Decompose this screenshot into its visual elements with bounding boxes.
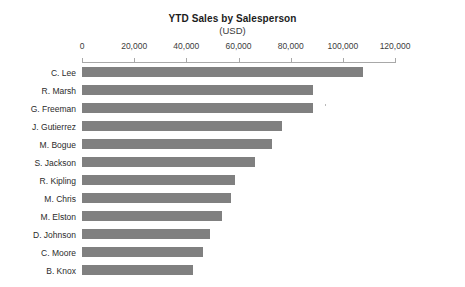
bar (82, 175, 235, 185)
bar (82, 121, 282, 131)
category-label: B. Knox (0, 266, 76, 276)
chart-subtitle: (USD) (0, 25, 465, 37)
bar-row (82, 99, 395, 117)
x-axis-tick-label: 20,000 (121, 41, 147, 52)
bar (82, 103, 313, 113)
bar-row (82, 207, 395, 225)
bar (82, 85, 313, 95)
category-label: M. Elston (0, 212, 76, 222)
bar (82, 265, 193, 275)
bar (82, 67, 363, 77)
bar-chart: YTD Sales by Salesperson (USD) C. LeeR. … (0, 0, 465, 287)
bar-row (82, 153, 395, 171)
bar-row (82, 225, 395, 243)
category-label: M. Chris (0, 194, 76, 204)
category-label: S. Jackson (0, 158, 76, 168)
category-label: J. Gutierrez (0, 122, 76, 132)
category-label: R. Kipling (0, 176, 76, 186)
bar-row (82, 171, 395, 189)
chart-title-block: YTD Sales by Salesperson (USD) (0, 13, 465, 37)
x-axis-tick-label: 60,000 (226, 41, 252, 52)
category-label: R. Marsh (0, 86, 76, 96)
bar-row (82, 135, 395, 153)
category-label: C. Lee (0, 68, 76, 78)
page-title: YTD Sales by Salesperson (0, 13, 465, 25)
category-label: G. Freeman (0, 104, 76, 114)
category-label: D. Johnson (0, 230, 76, 240)
stray-mark (325, 104, 326, 106)
bar-row (82, 117, 395, 135)
bar (82, 211, 222, 221)
category-label: M. Bogue (0, 140, 76, 150)
x-axis-tick-label: 40,000 (173, 41, 199, 52)
bars-layer (82, 63, 395, 281)
bar-row (82, 261, 395, 279)
bar-row (82, 243, 395, 261)
bar (82, 247, 203, 257)
value-axis: 020,00040,00060,00080,000100,000120,000 (82, 41, 395, 63)
bar (82, 157, 255, 167)
x-axis-tick-label: 100,000 (327, 41, 358, 52)
bar-row (82, 63, 395, 81)
x-axis-tick-label: 80,000 (278, 41, 304, 52)
bar-row (82, 189, 395, 207)
bar (82, 139, 272, 149)
bar (82, 193, 231, 203)
x-axis-tick (395, 58, 396, 63)
bar (82, 229, 210, 239)
x-axis-tick-label: 120,000 (380, 41, 411, 52)
category-label: C. Moore (0, 248, 76, 258)
bar-row (82, 81, 395, 99)
plot-area: 020,00040,00060,00080,000100,000120,000 (82, 41, 395, 281)
category-axis-labels: C. LeeR. MarshG. FreemanJ. GutierrezM. B… (0, 63, 76, 281)
x-axis-tick-label: 0 (80, 41, 85, 52)
